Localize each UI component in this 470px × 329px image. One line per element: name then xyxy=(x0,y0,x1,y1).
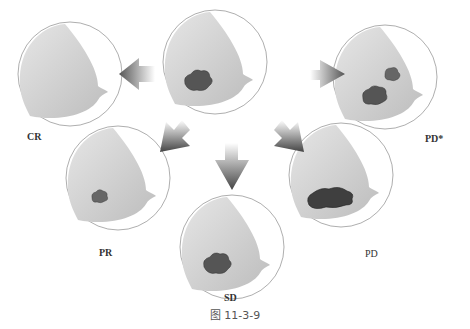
label-cr: CR xyxy=(27,131,41,142)
arrow-down-right-icon xyxy=(274,120,304,152)
panel-pd-star xyxy=(333,25,437,129)
figure-caption: 图 11-3-9 xyxy=(0,306,470,322)
panel-sd xyxy=(180,195,284,299)
arrow-down-icon xyxy=(215,143,249,190)
label-pr: PR xyxy=(99,247,112,258)
label-pd-star: PD* xyxy=(425,133,443,144)
panel-pr xyxy=(66,126,170,230)
arrow-left-icon xyxy=(119,58,155,90)
label-pd: PD xyxy=(365,248,378,259)
panel-cr xyxy=(18,22,122,126)
arrow-down-left-icon xyxy=(160,120,190,152)
response-diagram xyxy=(0,0,470,329)
center-breast xyxy=(163,10,267,114)
panel-pd xyxy=(289,123,393,227)
label-sd: SD xyxy=(224,292,237,303)
